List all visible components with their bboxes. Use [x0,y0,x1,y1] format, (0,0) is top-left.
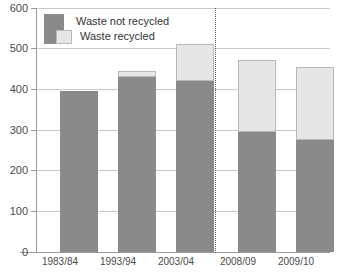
bar-segment-recycled[interactable] [296,67,334,140]
y-axis-line [36,8,37,253]
y-tick-100 [31,211,36,212]
legend-label-recycled: Waste recycled [80,30,155,43]
y-axis-label-200: 200 [0,165,28,176]
bar-segment-not-recycled[interactable] [176,81,214,252]
y-tick-600 [31,8,36,9]
bar-segment-recycled[interactable] [238,60,276,132]
chart-legend: Waste not recycled Waste recycled [44,14,194,48]
x-axis-line [20,252,330,253]
x-axis-label-1983-84: 1983/84 [31,256,89,268]
y-tick-500 [31,48,36,49]
bar-segment-recycled[interactable] [118,71,156,77]
legend-label-not-recycled: Waste not recycled [76,15,169,28]
y-axis-label-600: 600 [0,3,28,14]
x-axis-label-2003-04: 2003/04 [147,256,205,268]
y-axis-label-400: 400 [0,84,28,95]
y-axis-label-300: 300 [0,125,28,136]
x-axis-label-2008-09: 2008/09 [209,256,267,268]
bar-segment-not-recycled[interactable] [296,140,334,252]
x-axis-label-1993-94: 1993/94 [89,256,147,268]
y-axis-label-100: 100 [0,206,28,217]
stacked-bar-chart: 600 500 400 300 200 100 0 1983/84 1993/9… [0,0,348,277]
y-tick-200 [31,170,36,171]
bar-segment-not-recycled[interactable] [238,132,276,252]
bar-segment-recycled[interactable] [176,44,214,81]
legend-swatch-recycled [56,30,72,44]
x-axis-label-2009-10: 2009/10 [267,256,325,268]
bar-segment-not-recycled[interactable] [118,77,156,252]
y-axis-label-0: 0 [0,247,28,258]
y-tick-400 [31,89,36,90]
y-tick-0 [31,252,36,253]
period-divider-dotted-line [215,8,216,253]
y-axis-label-500: 500 [0,43,28,54]
gridline-600 [36,8,330,9]
bar-segment-not-recycled[interactable] [60,91,98,252]
y-tick-300 [31,130,36,131]
